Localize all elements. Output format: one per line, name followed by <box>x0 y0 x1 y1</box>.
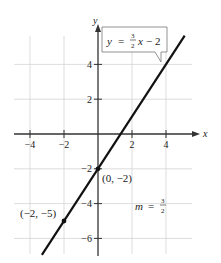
x-axis-label: x <box>202 128 208 139</box>
callout-denominator: 2 <box>131 42 135 50</box>
x-axis-arrow-icon <box>192 131 200 137</box>
data-point <box>96 166 101 171</box>
slope-label: m = 3 2 <box>135 197 166 215</box>
y-tick-label: 4 <box>87 59 92 70</box>
callout-rest: − 2 <box>146 35 160 47</box>
x-tick-label: −2 <box>59 139 70 150</box>
line-graph: −4−22442−2−4−6 x y y = 3 2 x − 2 (0, −2)… <box>0 0 221 263</box>
y-tick-label: −2 <box>81 163 92 174</box>
y-axis-label: y <box>92 15 98 26</box>
y-tick-label: −6 <box>81 233 92 244</box>
slope-equals: = <box>148 200 154 212</box>
x-tick-label: −4 <box>25 139 36 150</box>
y-tick-label: −4 <box>81 198 92 209</box>
data-point <box>62 219 67 224</box>
x-tick-label: 2 <box>130 139 135 150</box>
point-label-second: (−2, −5) <box>20 207 57 220</box>
slope-denominator: 2 <box>161 207 165 215</box>
slope-numerator: 3 <box>161 197 165 205</box>
slope-m: m <box>135 200 143 212</box>
callout-y: y <box>106 35 112 47</box>
y-tick-label: 2 <box>87 94 92 105</box>
callout-equals: = <box>118 35 124 47</box>
equation-callout: y = 3 2 x − 2 <box>102 27 167 62</box>
callout-x: x <box>137 35 143 47</box>
axes <box>14 24 200 256</box>
point-label-intercept: (0, −2) <box>102 172 132 185</box>
callout-numerator: 3 <box>131 32 135 40</box>
x-tick-label: 4 <box>164 139 169 150</box>
